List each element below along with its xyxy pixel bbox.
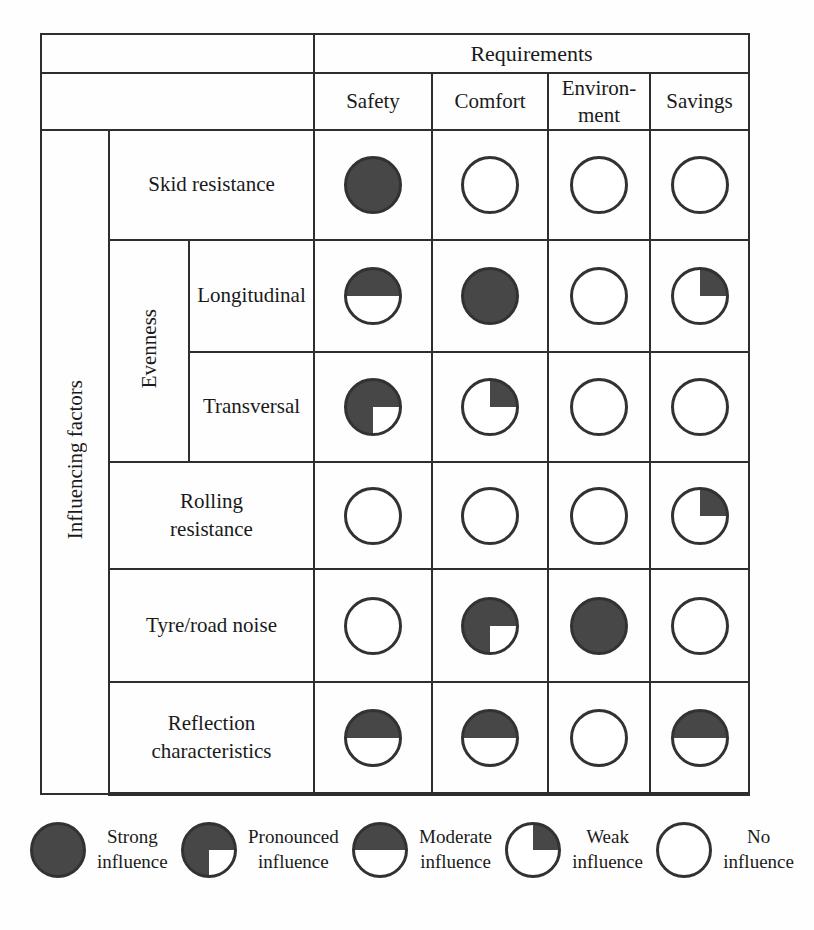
weak-influence-icon <box>505 822 561 878</box>
column-header-comfort: Comfort <box>432 73 548 130</box>
cell-longitudinal-environment <box>548 240 650 352</box>
cell-skid-environment <box>548 130 650 240</box>
legend-label-pronounced: Pronounced influence <box>248 825 339 874</box>
cell-rolling-environment <box>548 462 650 569</box>
cell-skid-savings <box>650 130 749 240</box>
column-header-savings: Savings <box>650 73 749 130</box>
cell-skid-comfort <box>432 130 548 240</box>
cell-longitudinal-safety <box>314 240 432 352</box>
row-label-rolling-resistance: Rolling resistance <box>109 462 314 569</box>
influencing-factors-label: Influencing factors <box>41 130 109 794</box>
cell-reflection-environment <box>548 682 650 794</box>
harvey-ball-rolling-comfort <box>461 487 519 545</box>
row-label-skid-resistance: Skid resistance <box>109 130 314 240</box>
cell-rolling-comfort <box>432 462 548 569</box>
harvey-ball-skid-comfort <box>461 156 519 214</box>
cell-noise-safety <box>314 569 432 682</box>
cell-reflection-safety <box>314 682 432 794</box>
cell-noise-comfort <box>432 569 548 682</box>
legend-item-strong: Strong influence <box>30 822 168 878</box>
harvey-ball-rolling-environment <box>570 487 628 545</box>
harvey-ball-skid-environment <box>570 156 628 214</box>
blank-corner <box>41 34 314 73</box>
evenness-label: Evenness <box>109 240 189 462</box>
influencing-factors-text: Influencing factors <box>63 380 88 539</box>
cell-transversal-savings <box>650 352 749 462</box>
legend-item-moderate: Moderate influence <box>352 822 492 878</box>
cell-transversal-safety <box>314 352 432 462</box>
legend-label-strong: Strong influence <box>97 825 168 874</box>
legend-item-weak: Weak influence <box>505 822 643 878</box>
figure-page: Requirements Safety Comfort Environ- men… <box>0 0 814 930</box>
row-label-tyre-road-noise: Tyre/road noise <box>109 569 314 682</box>
harvey-ball-rolling-safety <box>344 487 402 545</box>
harvey-ball-longitudinal-comfort <box>461 267 519 325</box>
strong-influence-icon <box>30 822 86 878</box>
requirements-header: Requirements <box>314 34 749 73</box>
blank-corner <box>41 73 314 130</box>
harvey-ball-noise-safety <box>344 597 402 655</box>
legend-item-none: No influence <box>656 822 794 878</box>
row-label-reflection-characteristics: Reflection characteristics <box>109 682 314 794</box>
harvey-ball-noise-savings <box>671 597 729 655</box>
harvey-ball-transversal-safety <box>344 378 402 436</box>
cell-longitudinal-comfort <box>432 240 548 352</box>
harvey-ball-skid-safety <box>344 156 402 214</box>
harvey-ball-noise-comfort <box>461 597 519 655</box>
cell-transversal-environment <box>548 352 650 462</box>
harvey-ball-reflection-comfort <box>461 709 519 767</box>
evenness-text: Evenness <box>137 309 162 388</box>
cell-reflection-savings <box>650 682 749 794</box>
legend-label-weak: Weak influence <box>572 825 643 874</box>
harvey-ball-longitudinal-safety <box>344 267 402 325</box>
cell-skid-safety <box>314 130 432 240</box>
harvey-ball-longitudinal-savings <box>671 267 729 325</box>
cell-noise-savings <box>650 569 749 682</box>
column-header-safety: Safety <box>314 73 432 130</box>
harvey-ball-noise-environment <box>570 597 628 655</box>
harvey-ball-rolling-savings <box>671 487 729 545</box>
legend-label-none: No influence <box>723 825 794 874</box>
legend-item-pronounced: Pronounced influence <box>181 822 339 878</box>
legend-label-moderate: Moderate influence <box>419 825 492 874</box>
harvey-ball-skid-savings <box>671 156 729 214</box>
cell-reflection-comfort <box>432 682 548 794</box>
no-influence-icon <box>656 822 712 878</box>
influence-matrix: Requirements Safety Comfort Environ- men… <box>40 33 750 796</box>
harvey-ball-reflection-safety <box>344 709 402 767</box>
harvey-ball-transversal-environment <box>570 378 628 436</box>
moderate-influence-icon <box>352 822 408 878</box>
cell-noise-environment <box>548 569 650 682</box>
row-label-transversal: Transversal <box>189 352 314 462</box>
pronounced-influence-icon <box>181 822 237 878</box>
cell-rolling-savings <box>650 462 749 569</box>
cell-longitudinal-savings <box>650 240 749 352</box>
cell-rolling-safety <box>314 462 432 569</box>
harvey-ball-reflection-environment <box>570 709 628 767</box>
column-header-environment: Environ- ment <box>548 73 650 130</box>
harvey-ball-reflection-savings <box>671 709 729 767</box>
legend: Strong influence Pronounced influence Mo… <box>0 822 814 878</box>
harvey-ball-longitudinal-environment <box>570 267 628 325</box>
cell-transversal-comfort <box>432 352 548 462</box>
row-label-longitudinal: Longitudinal <box>189 240 314 352</box>
harvey-ball-transversal-savings <box>671 378 729 436</box>
harvey-ball-transversal-comfort <box>461 378 519 436</box>
